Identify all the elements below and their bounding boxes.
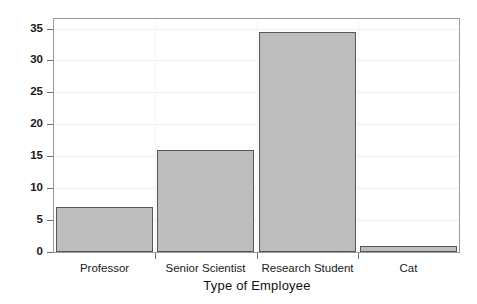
gridline-vertical [358, 19, 359, 252]
y-tick-label-text: 0 [3, 246, 43, 257]
y-tick-label-text: 35 [3, 23, 43, 34]
gridline-vertical [257, 19, 258, 252]
y-tick-label: 5 [0, 214, 43, 225]
bar [259, 32, 356, 252]
x-axis-title: Type of Employee [53, 278, 461, 293]
bar [157, 150, 254, 252]
y-tick-label-text: 30 [3, 54, 43, 65]
plot-area [54, 19, 459, 252]
bar-chart: Frequency 05101520253035 ProfessorSenior… [0, 0, 477, 304]
plot-area-frame [53, 18, 460, 253]
x-tick-label: Cat [358, 262, 459, 274]
y-tick-label-text: 5 [3, 214, 43, 225]
y-tick-label: 0 [0, 246, 43, 257]
y-tick-label: 25 [0, 86, 43, 97]
y-tick-label: 10 [0, 182, 43, 193]
bar [360, 246, 457, 252]
y-tick-label: 30 [0, 54, 43, 65]
y-tick-label-text: 25 [3, 86, 43, 97]
y-tick-label: 15 [0, 150, 43, 161]
gridline-vertical [155, 19, 156, 252]
bar [56, 207, 153, 252]
y-tick-label: 20 [0, 118, 43, 129]
x-tick-mark [358, 253, 359, 259]
y-tick-label-text: 20 [3, 118, 43, 129]
y-tick-label-text: 15 [3, 150, 43, 161]
x-tick-label: Professor [54, 262, 155, 274]
y-tick-label-text: 10 [3, 182, 43, 193]
x-tick-mark [155, 253, 156, 259]
x-tick-label: Senior Scientist [155, 262, 256, 274]
y-tick-label: 35 [0, 23, 43, 34]
x-tick-mark [257, 253, 258, 259]
x-tick-label: Research Student [257, 262, 358, 274]
